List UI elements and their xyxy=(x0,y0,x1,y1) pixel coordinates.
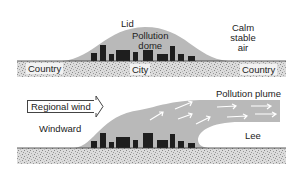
label-calm-stable-air: Calm stable air xyxy=(230,23,256,53)
regional-wind-arrow: Regional wind xyxy=(27,100,94,113)
ground-strip-bottom xyxy=(17,148,286,164)
label-regional-wind: Regional wind xyxy=(27,100,94,113)
label-lid: Lid xyxy=(121,19,134,29)
label-pollution-plume: Pollution plume xyxy=(216,89,281,99)
label-windward: Windward xyxy=(39,124,81,134)
label-lee: Lee xyxy=(245,131,261,141)
label-pollution-dome-line2: dome xyxy=(132,41,168,51)
label-pollution-dome: Pollution dome xyxy=(132,31,168,51)
label-country-right: Country xyxy=(240,64,277,75)
regional-wind-arrow-icon xyxy=(96,96,103,117)
label-air: air xyxy=(230,43,256,53)
label-country-left: Country xyxy=(26,63,63,74)
diagram-canvas xyxy=(0,0,303,173)
label-city: City xyxy=(130,64,150,75)
